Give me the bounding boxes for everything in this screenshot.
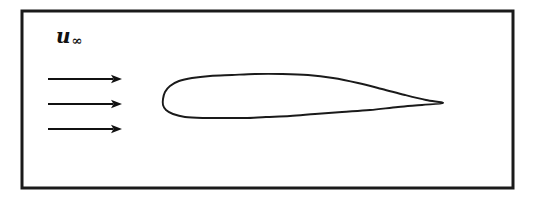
diagram-canvas	[0, 0, 533, 200]
airfoil-flow-diagram: u∞	[0, 0, 533, 200]
diagram-background	[0, 0, 533, 200]
